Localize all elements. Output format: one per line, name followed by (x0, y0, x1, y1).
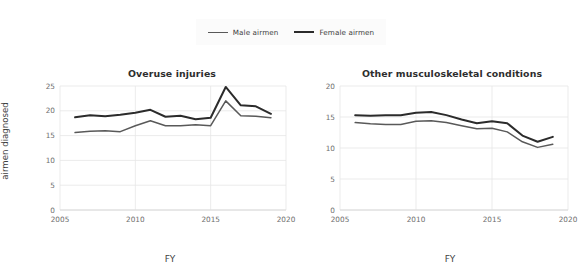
x-tick-label: 2005 (331, 215, 350, 224)
x-tick-label: 2020 (277, 215, 296, 224)
x-tick-label: 2005 (51, 215, 70, 224)
plot-area-other-musculoskeletal-conditions: 051015202005201020152020 (300, 64, 578, 244)
line-swatch-icon (208, 32, 228, 33)
x-tick-label: 2020 (559, 215, 578, 224)
series-line-female-airmen (355, 112, 553, 142)
y-tick-label: 0 (50, 206, 55, 215)
y-axis-label: Percentage of airmen diagnosed (0, 82, 8, 200)
y-tick-label: 25 (46, 82, 55, 91)
figure-container: Male airmen Female airmen Overuse injuri… (0, 0, 578, 274)
y-tick-label: 10 (46, 156, 56, 165)
x-tick-label: 2010 (407, 215, 426, 224)
x-axis-label-right: FY (300, 254, 578, 264)
y-tick-label: 15 (326, 113, 335, 122)
legend-entry-male-airmen: Male airmen (208, 28, 279, 37)
chart-panel-overuse-injuries: Overuse injuries Percentage of airmen di… (8, 64, 298, 264)
chart-panel-other-musculoskeletal-conditions: Other musculoskeletal conditions 0510152… (300, 64, 578, 264)
y-tick-label: 20 (326, 82, 336, 91)
line-swatch-icon (294, 31, 314, 33)
x-tick-label: 2015 (483, 215, 502, 224)
y-tick-label: 15 (46, 131, 55, 140)
y-tick-label: 5 (330, 175, 335, 184)
y-tick-label: 20 (46, 106, 56, 115)
series-line-female-airmen (75, 87, 271, 119)
chart-legend: Male airmen Female airmen (196, 19, 386, 45)
plot-area-overuse-injuries: 05101520252005201020152020 (8, 64, 298, 244)
legend-entry-female-airmen: Female airmen (294, 28, 374, 37)
x-tick-label: 2015 (201, 215, 220, 224)
series-line-male-airmen (355, 121, 553, 148)
x-axis-label-left: FY (8, 254, 298, 264)
legend-label-female-airmen: Female airmen (319, 28, 374, 37)
y-tick-label: 10 (326, 144, 336, 153)
y-tick-label: 5 (50, 181, 55, 190)
y-tick-label: 0 (330, 206, 335, 215)
x-tick-label: 2010 (126, 215, 145, 224)
legend-label-male-airmen: Male airmen (233, 28, 279, 37)
